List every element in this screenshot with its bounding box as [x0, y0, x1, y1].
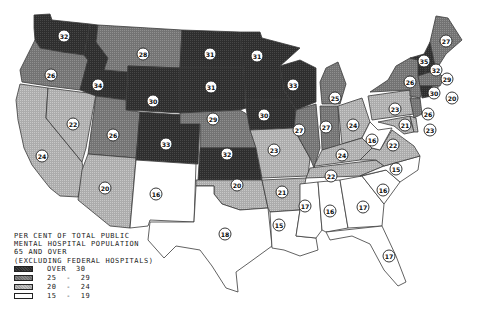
badge-delaware: 23	[424, 124, 436, 136]
badge-georgia: 17	[357, 201, 369, 213]
badge-west-virginia: 16	[366, 134, 378, 146]
badge-iowa: 30	[258, 109, 270, 121]
badge-pennsylvania: 23	[389, 103, 401, 115]
badge-colorado: 33	[160, 138, 172, 150]
badge-south-dakota: 31	[205, 81, 217, 93]
badge-idaho: 34	[92, 79, 104, 91]
svg-text:30: 30	[149, 98, 158, 105]
badge-maine: 27	[440, 35, 452, 47]
svg-text:22: 22	[327, 173, 336, 180]
legend-swatch-15-19	[14, 293, 33, 299]
badge-kansas: 32	[221, 148, 233, 160]
legend-row-20-24: 20 - 24	[14, 283, 194, 292]
svg-text:27: 27	[322, 124, 331, 131]
svg-text:26: 26	[109, 132, 118, 139]
legend-row-15-19: 15 - 19	[14, 292, 194, 301]
svg-text:23: 23	[426, 127, 435, 134]
svg-text:17: 17	[301, 203, 310, 210]
svg-text:32: 32	[223, 151, 232, 158]
badge-oregon: 26	[45, 69, 57, 81]
svg-text:18: 18	[221, 231, 230, 238]
badge-washington: 32	[58, 30, 70, 42]
badge-new-hampshire: 32	[430, 64, 442, 76]
legend-title-line-4: (EXCLUDING FEDERAL HOSPITALS)	[14, 257, 194, 265]
badge-north-dakota: 31	[204, 48, 216, 60]
svg-text:17: 17	[359, 204, 368, 211]
badge-mississippi: 17	[299, 200, 311, 212]
svg-text:23: 23	[391, 106, 400, 113]
badge-illinois: 27	[293, 124, 305, 136]
svg-text:32: 32	[60, 33, 69, 40]
badge-ohio: 24	[347, 119, 359, 131]
svg-text:21: 21	[278, 189, 287, 196]
svg-text:31: 31	[206, 51, 215, 58]
svg-text:27: 27	[295, 127, 304, 134]
svg-text:30: 30	[430, 90, 439, 97]
legend-swatch-25-29	[14, 275, 33, 281]
svg-text:29: 29	[443, 76, 452, 83]
svg-text:21: 21	[401, 122, 410, 129]
svg-text:15: 15	[392, 166, 401, 173]
badge-north-carolina: 15	[390, 163, 402, 175]
svg-text:24: 24	[338, 152, 347, 159]
badge-louisiana: 15	[273, 219, 285, 231]
legend-swatch-over30	[14, 266, 33, 272]
svg-text:22: 22	[69, 121, 78, 128]
svg-text:34: 34	[94, 82, 103, 89]
badge-michigan: 25	[329, 92, 341, 104]
svg-text:20: 20	[101, 185, 110, 192]
svg-text:26: 26	[47, 72, 56, 79]
badge-wisconsin: 33	[287, 79, 299, 91]
badge-tennessee: 22	[325, 170, 337, 182]
state-iowa	[246, 100, 296, 130]
legend-title-line-1: PER CENT OF TOTAL PUBLIC	[14, 232, 194, 240]
badge-new-jersey: 26	[422, 108, 434, 120]
svg-text:27: 27	[442, 38, 451, 45]
map-legend: PER CENT OF TOTAL PUBLIC MENTAL HOSPITAL…	[14, 232, 194, 301]
svg-text:31: 31	[253, 53, 262, 60]
svg-text:32: 32	[432, 67, 441, 74]
svg-text:17: 17	[385, 253, 394, 260]
legend-row-25-29: 25 - 29	[14, 274, 194, 283]
badge-south-carolina: 16	[377, 184, 389, 196]
svg-text:31: 31	[207, 84, 216, 91]
svg-text:33: 33	[162, 141, 171, 148]
svg-text:20: 20	[233, 182, 242, 189]
svg-text:30: 30	[260, 112, 269, 119]
svg-text:16: 16	[368, 137, 377, 144]
legend-label-over30: OVER 30	[47, 265, 86, 273]
svg-text:33: 33	[289, 82, 298, 89]
badge-wyoming: 30	[147, 95, 159, 107]
badge-new-york: 26	[404, 76, 416, 88]
badge-nevada: 22	[67, 118, 79, 130]
badge-minnesota: 31	[251, 50, 263, 62]
svg-text:26: 26	[424, 111, 433, 118]
svg-text:16: 16	[152, 191, 161, 198]
badge-massachusetts: 29	[441, 73, 453, 85]
legend-label-25-29: 25 - 29	[47, 274, 90, 282]
legend-label-20-24: 20 - 24	[47, 283, 90, 291]
svg-text:24: 24	[38, 153, 47, 160]
badge-nebraska: 29	[207, 113, 219, 125]
badge-rhode-island: 20	[446, 92, 458, 104]
badge-utah: 26	[107, 129, 119, 141]
legend-swatch-20-24	[14, 284, 33, 290]
state-new-mexico	[130, 160, 196, 228]
legend-title-line-3: 65 AND OVER	[14, 248, 194, 256]
svg-text:25: 25	[331, 95, 340, 102]
svg-text:16: 16	[379, 187, 388, 194]
badge-kentucky: 24	[336, 149, 348, 161]
svg-text:23: 23	[270, 147, 279, 154]
state-new-jersey	[410, 98, 422, 118]
svg-text:28: 28	[139, 51, 148, 58]
badge-alabama: 16	[324, 205, 336, 217]
svg-text:15: 15	[275, 222, 284, 229]
badge-missouri: 23	[268, 144, 280, 156]
badge-arizona: 20	[99, 182, 111, 194]
svg-text:24: 24	[349, 122, 358, 129]
svg-text:29: 29	[209, 116, 218, 123]
badge-connecticut: 30	[428, 87, 440, 99]
badge-maryland: 21	[399, 119, 411, 131]
badge-virginia: 22	[387, 139, 399, 151]
legend-label-15-19: 15 - 19	[47, 292, 90, 300]
